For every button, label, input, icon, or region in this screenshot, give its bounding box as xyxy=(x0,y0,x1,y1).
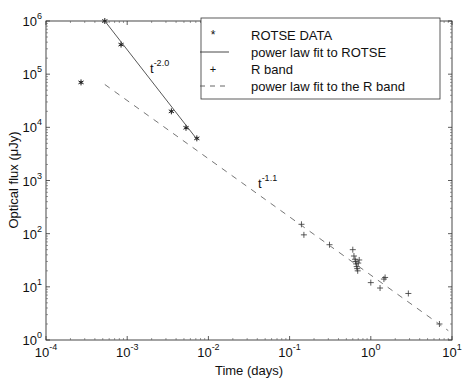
rotse-data-point xyxy=(78,79,83,85)
y-tick-label: 105 xyxy=(23,64,42,82)
y-tick-label: 106 xyxy=(23,11,42,29)
x-tick-label: 10-4 xyxy=(35,342,57,360)
annotation-rband-slope: t-1.1 xyxy=(258,173,277,191)
rband-data-point xyxy=(382,274,388,280)
rband-data-point xyxy=(381,276,387,282)
x-axis-label: Time (days) xyxy=(215,363,283,378)
legend-label: power law fit to the R band xyxy=(251,79,405,94)
legend-label: R band xyxy=(251,62,293,77)
rband-data-point xyxy=(377,285,383,291)
rband-data-point xyxy=(405,290,411,296)
y-tick-label: 104 xyxy=(23,117,42,135)
legend-label: power law fit to ROTSE xyxy=(251,45,386,60)
rband-data-point xyxy=(350,247,356,253)
x-tick-label: 100 xyxy=(361,342,380,360)
rband-data-point xyxy=(368,280,374,286)
y-tick-label: 103 xyxy=(23,171,42,189)
rband-data-point xyxy=(356,257,362,263)
legend-marker-plus: + xyxy=(210,63,216,75)
x-tick-label: 10-3 xyxy=(116,342,138,360)
y-axis-label: Optical flux (μJy) xyxy=(6,131,21,228)
chart: 10-410-310-210-1100101100101102103104105… xyxy=(0,0,466,382)
annotation-rotse-slope: t-2.0 xyxy=(150,58,169,76)
rband-fit-line xyxy=(105,84,448,330)
y-tick-label: 101 xyxy=(23,277,42,295)
legend-label: ROTSE DATA xyxy=(251,28,332,43)
x-tick-label: 10-2 xyxy=(197,342,219,360)
x-tick-label: 101 xyxy=(442,342,461,360)
legend-marker-star: * xyxy=(211,28,216,42)
legend: * + ROTSE DATA power law fit to ROTSE R … xyxy=(200,18,440,99)
rband-data-point xyxy=(351,253,357,259)
y-tick-label: 102 xyxy=(23,224,42,242)
rband-data-point xyxy=(301,232,307,238)
rotse-fit-line xyxy=(105,21,197,139)
x-tick-label: 10-1 xyxy=(278,342,300,360)
